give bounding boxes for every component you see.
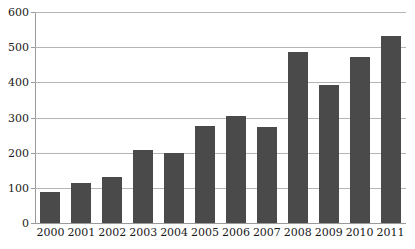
x-axis-tick-label: 2007 xyxy=(253,227,281,238)
x-axis-tick-label: 2004 xyxy=(160,227,188,238)
bar xyxy=(133,150,153,223)
bar xyxy=(350,57,370,223)
x-axis-tick-label: 2002 xyxy=(98,227,126,238)
y-axis-tick-label: 0 xyxy=(22,218,29,229)
bar xyxy=(164,153,184,223)
x-axis-tick-label: 2005 xyxy=(191,227,219,238)
bar xyxy=(288,52,308,223)
bar xyxy=(226,116,246,223)
x-axis-tick-label: 2011 xyxy=(377,227,405,238)
bar xyxy=(319,85,339,223)
x-axis-tick-label: 2003 xyxy=(129,227,157,238)
bar xyxy=(40,192,60,223)
gridline xyxy=(35,223,406,224)
bar xyxy=(257,127,277,223)
bar-chart-figure: 0100200300400500600 20002001200220032004… xyxy=(0,0,415,249)
y-axis-tick-label: 200 xyxy=(8,147,29,158)
bar xyxy=(195,126,215,223)
y-axis-tick-label: 100 xyxy=(8,182,29,193)
x-axis-tick-label: 2001 xyxy=(67,227,95,238)
x-axis-tick-labels: 2000200120022003200420052006200720082009… xyxy=(35,12,406,52)
x-axis-tick-label: 2006 xyxy=(222,227,250,238)
x-axis-tick-label: 2010 xyxy=(346,227,374,238)
x-axis-tick-label: 2009 xyxy=(315,227,343,238)
bar xyxy=(102,177,122,223)
x-axis-tick-label: 2000 xyxy=(36,227,64,238)
bar xyxy=(71,183,91,223)
bar xyxy=(381,36,401,223)
y-axis-tick-label: 400 xyxy=(8,77,29,88)
y-axis-tick-label: 300 xyxy=(8,112,29,123)
y-axis-tick-mark xyxy=(31,223,35,224)
y-axis-tick-label: 500 xyxy=(8,42,29,53)
x-axis-tick-label: 2008 xyxy=(284,227,312,238)
y-axis-tick-label: 600 xyxy=(8,7,29,18)
